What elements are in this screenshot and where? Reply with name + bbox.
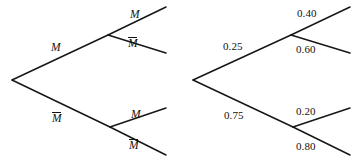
event-label-level2-upper-lower: M [128,37,138,50]
probability-tree-figure: M M M M M M 0.25 0.75 0.40 0.60 0.20 0.8… [0,0,355,162]
overline-wrapper: M [52,112,62,125]
event-label-level1-lower: M [52,112,62,125]
event-tree-branches [12,7,166,155]
prob-label-level2-lower-lower: 0.80 [296,141,316,152]
prob-label-level1-lower: 0.75 [224,110,244,121]
event-label-level1-upper: M [51,42,61,54]
overline-wrapper: M [128,37,138,50]
prob-label-level2-upper-lower: 0.60 [296,44,316,55]
event-label-level2-upper-upper: M [130,9,140,21]
event-label-level2-lower-lower: M [129,139,139,152]
prob-label-level2-lower-upper: 0.20 [296,106,316,117]
probability-tree-branches [193,7,350,155]
prob-label-level2-upper-upper: 0.40 [297,8,317,19]
event-label-level2-lower-upper: M [131,109,141,121]
overline-wrapper: M [129,139,139,152]
prob-label-level1-upper: 0.25 [223,41,243,52]
tree-lines [0,0,355,162]
